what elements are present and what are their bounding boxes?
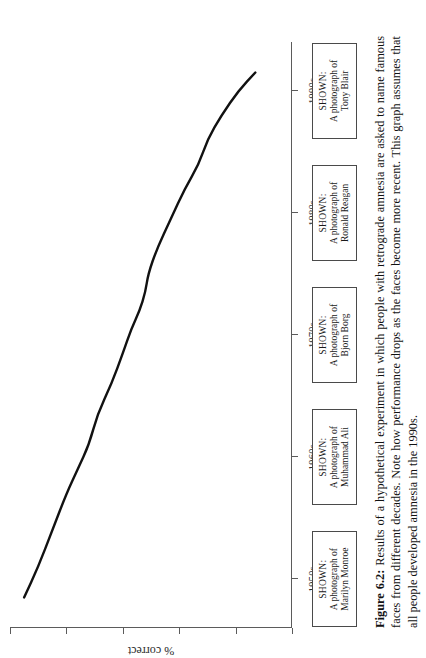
shown-box: SHOWN:A photograph of Marilyn Monroe bbox=[312, 531, 357, 627]
y-axis-tick bbox=[10, 628, 11, 634]
shown-box-label: SHOWN: bbox=[318, 315, 329, 354]
y-axis-tick bbox=[292, 628, 293, 634]
figure-caption: Figure 6.2: Results of a hypothetical ex… bbox=[372, 36, 421, 628]
shown-box: SHOWN:A photograph of Tony Blair bbox=[312, 43, 357, 139]
shown-box-label: SHOWN: bbox=[318, 71, 329, 110]
x-axis-tick bbox=[292, 334, 298, 335]
x-axis-tick bbox=[292, 456, 298, 457]
shown-box-label: SHOWN: bbox=[318, 560, 329, 599]
shown-box-label: SHOWN: bbox=[318, 437, 329, 476]
y-axis-tick bbox=[179, 628, 180, 634]
figure-caption-text: Results of a hypothetical experiment in … bbox=[373, 36, 420, 628]
figure-caption-label: Figure 6.2: bbox=[373, 570, 387, 628]
x-axis-tick bbox=[292, 90, 298, 91]
y-axis-label: % correct bbox=[128, 643, 174, 658]
y-axis-tick bbox=[66, 628, 67, 634]
data-line-series bbox=[10, 42, 292, 628]
y-axis-tick bbox=[123, 628, 124, 634]
shown-box-label: SHOWN: bbox=[318, 193, 329, 232]
x-axis-tick bbox=[292, 578, 298, 579]
line-chart: 1950s1960s1970s1980s1990s % correct bbox=[10, 42, 292, 628]
y-axis-tick bbox=[236, 628, 237, 634]
shown-box: SHOWN:A photograph of Ronald Reagan bbox=[312, 165, 357, 261]
shown-box: SHOWN:A photograph of Muhammad Ali bbox=[312, 409, 357, 505]
x-axis-tick bbox=[292, 212, 298, 213]
shown-box-description: A photograph of Ronald Reagan bbox=[329, 182, 351, 244]
shown-box-description: A photograph of Bjorn Borg bbox=[329, 304, 351, 366]
shown-box-description: A photograph of Tony Blair bbox=[329, 60, 351, 122]
shown-box-description: A photograph of Muhammad Ali bbox=[329, 426, 351, 488]
shown-box-description: A photograph of Marilyn Monroe bbox=[329, 548, 351, 611]
shown-box: SHOWN:A photograph of Bjorn Borg bbox=[312, 287, 357, 383]
shown-boxes-row: SHOWN:A photograph of Marilyn MonroeSHOW… bbox=[312, 42, 358, 628]
